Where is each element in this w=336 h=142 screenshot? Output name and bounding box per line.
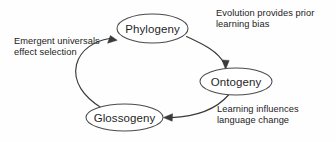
diagram-canvas: Phylogeny Ontogeny Glossogeny Evolution … [0,0,336,142]
node-ontogeny-label: Ontogeny [211,76,262,88]
arrowhead-left-glossogeny [163,114,172,122]
node-glossogeny-label: Glossogeny [94,112,156,124]
edge-label-evolution-line2: learning bias [216,19,314,30]
node-phylogeny[interactable]: Phylogeny [117,14,188,43]
edge-label-evolution-line1: Evolution provides prior [216,8,314,19]
edge-path-phylogeny-ontogeny [187,37,225,64]
node-ontogeny[interactable]: Ontogeny [200,68,272,95]
edge-label-emergent-line1: Emergent universals [14,36,100,47]
edge-label-learning-line2: language change [217,115,299,126]
edge-label-emergent-line2: effect selection [14,47,100,58]
edge-label-learning: Learning influences language change [217,104,299,127]
edge-label-learning-line1: Learning influences [217,104,299,115]
node-glossogeny[interactable]: Glossogeny [86,104,163,131]
node-phylogeny-label: Phylogeny [125,23,180,35]
edge-phylogeny-to-ontogeny [187,37,230,70]
arrowhead-upright-phylogeny [108,36,118,44]
edge-label-evolution: Evolution provides prior learning bias [216,8,314,31]
edge-label-emergent: Emergent universals effect selection [14,36,100,59]
